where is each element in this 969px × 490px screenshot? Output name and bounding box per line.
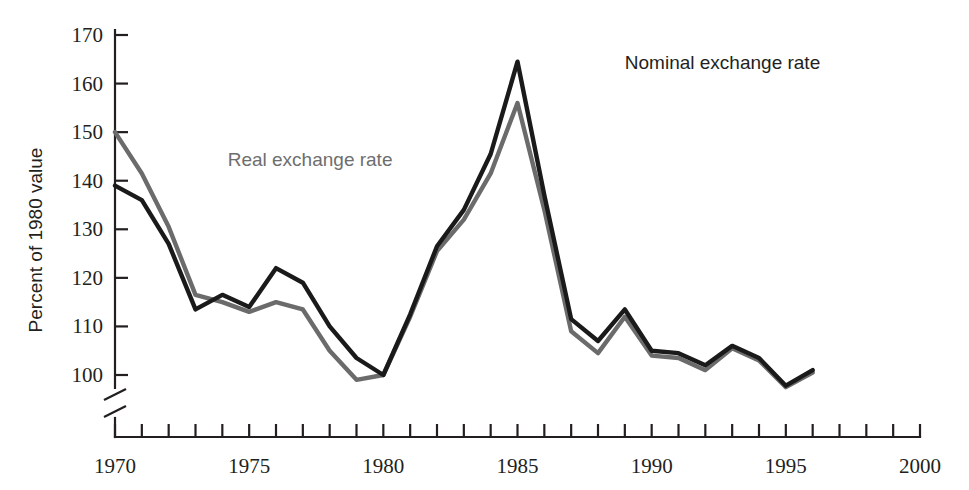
y-tick-group xyxy=(115,35,128,375)
y-tick-label: 150 xyxy=(72,120,104,144)
x-tick-label: 1995 xyxy=(765,454,807,478)
x-tick-label: 1975 xyxy=(228,454,270,478)
y-tick-label: 170 xyxy=(72,23,104,47)
y-axis-title: Percent of 1980 value xyxy=(25,148,46,333)
y-tick-label: 140 xyxy=(72,169,104,193)
x-tick-label: 1985 xyxy=(497,454,539,478)
real-exchange-rate-label: Real exchange rate xyxy=(228,149,393,170)
x-tick-label: 1990 xyxy=(631,454,673,478)
x-tick-label: 1970 xyxy=(94,454,136,478)
y-tick-label: 130 xyxy=(72,217,104,241)
y-tick-label-group: 100110120130140150160170 xyxy=(72,23,104,387)
nominal-exchange-rate-line xyxy=(115,62,813,386)
y-tick-label: 100 xyxy=(72,363,104,387)
x-tick-label-group: 1970197519801985199019952000 xyxy=(94,454,941,478)
exchange-rate-line-chart: Percent of 1980 value 100110120130140150… xyxy=(0,0,969,490)
y-tick-label: 120 xyxy=(72,266,104,290)
x-tick-group xyxy=(115,424,920,437)
y-tick-label: 110 xyxy=(72,314,103,338)
y-axis: 100110120130140150160170 xyxy=(72,23,129,437)
series-annotations: Real exchange rate Nominal exchange rate xyxy=(228,52,821,170)
x-axis: 1970197519801985199019952000 xyxy=(94,424,941,478)
x-tick-label: 2000 xyxy=(899,454,941,478)
y-axis-title-text: Percent of 1980 value xyxy=(25,148,46,333)
data-series-group xyxy=(115,62,813,387)
axis-break-slash-lower xyxy=(104,406,126,417)
y-tick-label: 160 xyxy=(72,72,104,96)
axis-break-slash-upper xyxy=(104,389,126,400)
nominal-exchange-rate-label: Nominal exchange rate xyxy=(625,52,820,73)
chart-figure: Percent of 1980 value 100110120130140150… xyxy=(0,0,969,490)
x-tick-label: 1980 xyxy=(362,454,404,478)
real-exchange-rate-line xyxy=(115,103,813,387)
